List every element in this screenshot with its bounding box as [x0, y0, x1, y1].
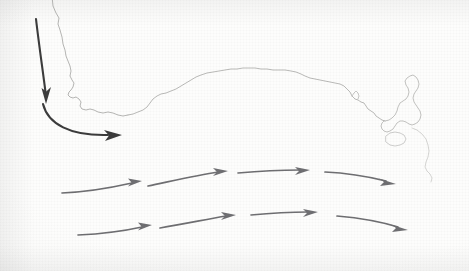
- row1-seg4-shaft: [325, 172, 386, 181]
- row2-seg1-head: [138, 223, 152, 231]
- coastline-tasmania-north-west: [381, 75, 421, 132]
- coastline-west-coast-southwest-australia: [52, 0, 128, 116]
- coastline-tasmania-east-coast-fragment: [412, 128, 432, 182]
- row2-seg4-shaft: [337, 216, 398, 227]
- row2-seg1-shaft: [78, 227, 142, 235]
- leeuwin-current-inflow-arrow-shaft: [36, 19, 46, 96]
- coastline-bass-strait-islet: [386, 132, 406, 146]
- leeuwin-current-inflow-arrow: [36, 19, 51, 104]
- coastline-south-coast-great-australian-bight: [128, 68, 385, 121]
- row2-seg2-shaft: [160, 216, 226, 228]
- leeuwin-current-turn-arrow-shaft: [43, 104, 108, 135]
- row2-seg4: [337, 216, 408, 232]
- row1-seg3: [238, 167, 310, 175]
- map-figure: [0, 0, 469, 271]
- row1-seg3-shaft: [238, 170, 300, 173]
- row2-seg4-head: [391, 225, 408, 233]
- row1-seg1-head: [128, 179, 142, 187]
- row1-seg4: [325, 172, 396, 186]
- row1-seg2-shaft: [148, 172, 218, 186]
- coastline-south-australia-gulf-notch: [352, 91, 359, 99]
- coastline-group: [52, 0, 432, 182]
- row2-seg2: [160, 212, 236, 228]
- row2-seg3-head: [303, 209, 318, 217]
- row1-seg2: [148, 168, 228, 186]
- row2-seg3-shaft: [251, 212, 308, 215]
- current-arrows-group: [36, 19, 408, 235]
- row1-seg1: [62, 179, 142, 194]
- leeuwin-current-inflow-arrow-head: [42, 87, 52, 104]
- row1-seg3-head: [295, 167, 310, 175]
- row2-seg1: [78, 223, 152, 236]
- row1-seg1-shaft: [62, 183, 132, 193]
- map-canvas: [0, 0, 469, 271]
- row1-seg4-head: [379, 179, 396, 187]
- row2-seg3: [251, 209, 318, 217]
